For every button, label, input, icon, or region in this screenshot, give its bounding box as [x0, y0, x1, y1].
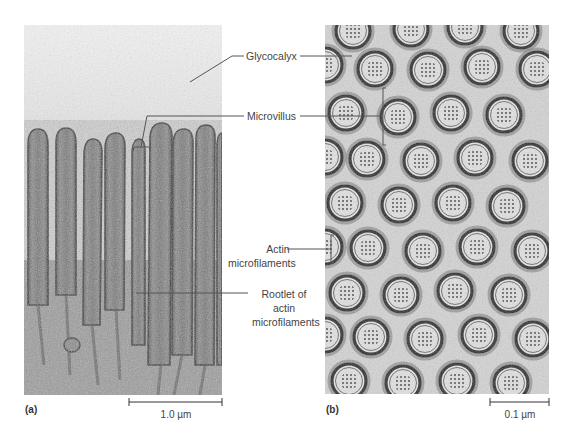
actin-microfilaments-label: Actin microfilaments [228, 242, 288, 270]
panel-a-tag: (a) [25, 404, 37, 415]
scale-bar-a [129, 398, 222, 406]
rootlet-label-line1: Rootlet of [252, 287, 316, 301]
actin-label-line2: microfilaments [228, 256, 288, 270]
microvillus-label: Microvillus [247, 109, 296, 123]
micrograph-panel-b [325, 25, 549, 394]
micrograph-panel-a [24, 25, 222, 395]
rootlet-label-line2: actin [252, 301, 316, 315]
glycocalyx-label: Glycocalyx [246, 49, 297, 63]
actin-label-line1: Actin [248, 242, 308, 256]
microvilli-cross-section-image [325, 25, 549, 394]
scale-bar-a-label: 1.0 µm [150, 409, 202, 420]
panel-b-tag: (b) [326, 404, 339, 415]
microvilli-longitudinal-image [24, 25, 222, 395]
rootlet-label-line3: microfilaments [252, 315, 316, 329]
scale-bar-b-label: 0.1 µm [492, 409, 548, 420]
rootlet-label: Rootlet of actin microfilaments [252, 287, 316, 329]
scale-bar-b [490, 398, 549, 406]
